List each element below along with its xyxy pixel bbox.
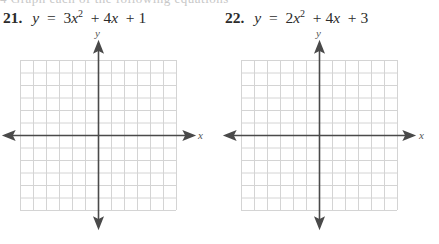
axes — [225, 42, 414, 228]
problem-22: 22. y = 2x2 + 4x + 3 — [220, 0, 439, 244]
x-axis-right-arrow-icon — [404, 132, 414, 140]
x-axis-label: x — [197, 129, 203, 141]
x-axis-label: x — [418, 129, 424, 141]
x-axis-right-arrow-icon — [184, 132, 194, 140]
axes — [4, 42, 194, 228]
x-axis-left-arrow-icon — [4, 132, 14, 140]
problem-21: 21. y = 3x2 + 4x + 1 — [0, 0, 219, 244]
y-axis-label: y — [94, 27, 100, 39]
y-axis-label: y — [315, 27, 321, 39]
y-axis-down-arrow-icon — [316, 218, 324, 228]
y-axis-up-arrow-icon — [95, 42, 103, 52]
x-axis-left-arrow-icon — [225, 132, 235, 140]
coordinate-grid: x y — [0, 0, 219, 244]
coordinate-grid: x y — [220, 0, 439, 244]
y-axis-down-arrow-icon — [95, 218, 103, 228]
y-axis-up-arrow-icon — [316, 42, 324, 52]
